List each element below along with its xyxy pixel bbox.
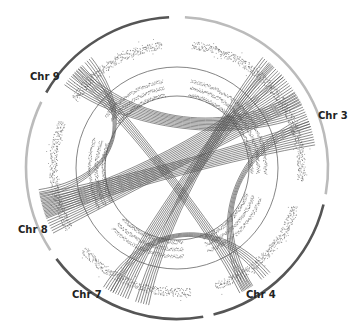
scatter-point — [284, 236, 285, 237]
scatter-point — [218, 230, 219, 231]
scatter-point — [258, 172, 259, 173]
scatter-point — [249, 269, 250, 270]
scatter-point — [206, 102, 207, 103]
scatter-point — [195, 96, 196, 97]
scatter-point — [180, 290, 181, 291]
scatter-point — [213, 89, 214, 90]
scatter-point — [256, 161, 257, 162]
scatter-point — [196, 97, 197, 98]
scatter-point — [256, 133, 257, 134]
scatter-point — [137, 240, 138, 241]
scatter-point — [250, 69, 251, 70]
scatter-point — [294, 207, 295, 208]
scatter-point — [133, 243, 134, 244]
scatter-point — [102, 65, 103, 66]
scatter-point — [230, 96, 231, 97]
scatter-point — [243, 272, 244, 273]
scatter-point — [151, 50, 152, 51]
scatter-point — [267, 251, 268, 252]
scatter-point — [58, 144, 59, 145]
scatter-point — [151, 85, 152, 86]
scatter-point — [174, 240, 175, 241]
scatter-point — [221, 108, 222, 109]
scatter-point — [56, 171, 57, 172]
scatter-point — [280, 238, 281, 239]
scatter-point — [175, 294, 176, 295]
scatter-point — [244, 223, 245, 224]
scatter-point — [158, 43, 159, 44]
scatter-point — [249, 64, 250, 65]
scatter-point — [269, 247, 270, 248]
scatter-point — [104, 168, 105, 169]
scatter-point — [210, 93, 211, 94]
scatter-point — [55, 166, 56, 167]
scatter-point — [274, 242, 275, 243]
scatter-point — [244, 136, 245, 137]
scatter-point — [214, 105, 215, 106]
scatter-point — [64, 212, 65, 213]
scatter-point — [204, 97, 205, 98]
scatter-point — [257, 164, 258, 165]
scatter-point — [90, 150, 91, 151]
scatter-point — [90, 261, 91, 262]
scatter-point — [220, 287, 221, 288]
scatter-point — [56, 163, 57, 164]
scatter-point — [131, 242, 132, 243]
scatter-point — [189, 288, 190, 289]
scatter-point — [161, 97, 162, 98]
scatter-point — [52, 160, 53, 161]
scatter-point — [136, 236, 137, 237]
scatter-point — [203, 98, 204, 99]
scatter-point — [249, 67, 250, 68]
scatter-point — [136, 232, 137, 233]
scatter-point — [107, 145, 108, 146]
scatter-point — [224, 57, 225, 58]
scatter-point — [108, 63, 109, 64]
scatter-point — [50, 165, 51, 166]
scatter-point — [154, 96, 155, 97]
scatter-point — [199, 88, 200, 89]
scatter-point — [94, 143, 95, 144]
scatter-point — [141, 235, 142, 236]
scatter-point — [301, 149, 302, 150]
scatter-point — [304, 158, 305, 159]
scatter-point — [58, 141, 59, 142]
scatter-point — [99, 152, 100, 153]
scatter-point — [177, 248, 178, 249]
scatter-point — [221, 284, 222, 285]
scatter-point — [238, 231, 239, 232]
scatter-point — [54, 194, 55, 195]
scatter-point — [137, 283, 138, 284]
scatter-point — [130, 236, 131, 237]
scatter-point — [93, 259, 94, 260]
scatter-point — [210, 101, 211, 102]
scatter-point — [127, 234, 128, 235]
scatter-point — [256, 267, 257, 268]
scatter-point — [134, 93, 135, 94]
scatter-point — [107, 271, 108, 272]
scatter-point — [136, 99, 137, 100]
scatter-point — [260, 199, 261, 200]
scatter-point — [238, 208, 239, 209]
scatter-point — [149, 83, 150, 84]
scatter-point — [228, 97, 229, 98]
scatter-point — [162, 87, 163, 88]
scatter-point — [149, 99, 150, 100]
scatter-point — [246, 270, 247, 271]
scatter-point — [207, 250, 208, 251]
scatter-point — [144, 49, 145, 50]
scatter-point — [236, 213, 237, 214]
scatter-point — [274, 250, 275, 251]
scatter-point — [160, 95, 161, 96]
scatter-point — [87, 252, 88, 253]
scatter-point — [194, 80, 195, 81]
scatter-point — [149, 86, 150, 87]
scatter-point — [107, 274, 108, 275]
scatter-point — [195, 80, 196, 81]
scatter-point — [241, 218, 242, 219]
scatter-point — [292, 220, 293, 221]
scatter-point — [153, 84, 154, 85]
scatter-point — [298, 149, 299, 150]
scatter-point — [242, 269, 243, 270]
scatter-point — [227, 52, 228, 53]
